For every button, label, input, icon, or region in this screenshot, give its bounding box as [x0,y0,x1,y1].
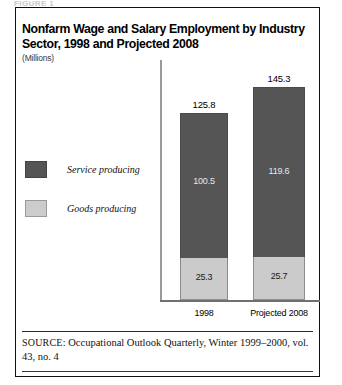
legend-item-service-producing: Service producing [25,158,140,180]
source-label: SOURCE: [22,337,66,348]
legend-item-goods-producing: Goods producing [25,197,140,219]
chart-subtitle: (Millions) [22,53,54,63]
chart-title: Nonfarm Wage and Salary Employment by In… [22,22,317,52]
legend-swatch-service-producing [25,161,47,178]
source-divider-bottom [22,371,313,372]
chart-legend: Service producing Goods producing [25,158,140,236]
legend-label-service-producing: Service producing [67,164,140,175]
source-note: SOURCE: Occupational Outlook Quarterly, … [22,336,314,363]
legend-label-goods-producing: Goods producing [67,203,136,214]
source-divider-top [22,331,313,332]
legend-swatch-goods-producing [25,200,47,217]
figure-top-caption: FIGURE 1 [14,0,164,7]
